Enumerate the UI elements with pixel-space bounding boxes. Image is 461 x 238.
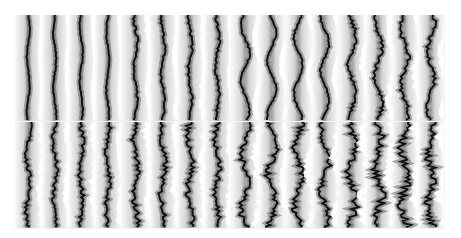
pattern-panel-r0-c2 (232, 15, 339, 122)
pattern-panel-r0-c0 (15, 15, 122, 122)
stripe-pattern-figure (15, 15, 445, 229)
pattern-panel-r1-c2 (232, 122, 339, 229)
pattern-panel-r1-c1 (122, 122, 232, 229)
pattern-panel-r0-c3 (339, 15, 445, 122)
pattern-panel-r1-c3 (339, 122, 445, 229)
pattern-panel-r1-c0 (15, 122, 122, 229)
pattern-panel-r0-c1 (122, 15, 232, 122)
